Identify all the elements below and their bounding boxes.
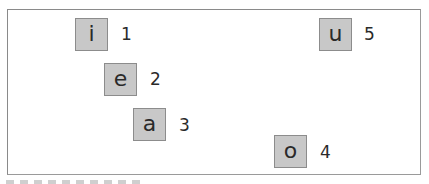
vowel-tile-i: i (75, 18, 108, 51)
vowel-number-3: 3 (179, 117, 190, 134)
vowel-number-1: 1 (121, 26, 132, 43)
vowel-tile-e: e (104, 63, 137, 96)
vowel-number-4: 4 (320, 144, 331, 161)
vowel-tile-u: u (319, 18, 352, 51)
clipped-caption-row (6, 180, 206, 184)
vowel-number-5: 5 (364, 26, 375, 43)
vowel-tile-a: a (133, 108, 166, 141)
vowel-number-2: 2 (150, 71, 161, 88)
vowel-tile-o: o (274, 135, 307, 168)
diagram-frame (7, 9, 421, 175)
